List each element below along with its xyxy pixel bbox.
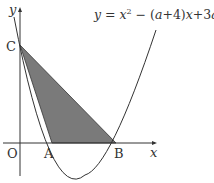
parabola-curve bbox=[14, 17, 156, 179]
diagram: y x O C A B y = x2 − (a+4)x+3a+3 bbox=[0, 0, 214, 183]
origin-label: O bbox=[7, 146, 18, 161]
point-b-label: B bbox=[114, 146, 124, 161]
x-axis-label: x bbox=[150, 145, 158, 160]
point-c-label: C bbox=[6, 39, 16, 54]
parabola-equation: y = x2 − (a+4)x+3a+3 bbox=[93, 7, 214, 22]
y-axis-label: y bbox=[8, 2, 17, 17]
shaded-triangle-abc bbox=[20, 45, 116, 143]
point-a-label: A bbox=[43, 146, 54, 161]
y-axis-arrow bbox=[18, 7, 22, 12]
